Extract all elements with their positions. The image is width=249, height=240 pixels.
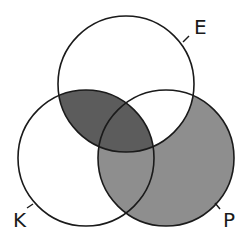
leader-line-p	[215, 203, 220, 209]
label-p: P	[223, 208, 235, 232]
label-e: E	[194, 15, 207, 39]
leader-line-k	[27, 204, 33, 208]
leader-line-e	[183, 36, 189, 42]
label-k: K	[13, 208, 27, 232]
venn-diagram: E K P	[0, 0, 249, 240]
